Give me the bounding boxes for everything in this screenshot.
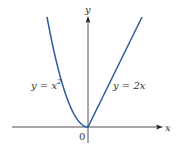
origin-label: 0 — [79, 131, 85, 142]
line-equation: y = 2x — [112, 80, 146, 91]
parabola-equation-base: y = x — [30, 80, 57, 91]
line-curve — [88, 17, 142, 127]
x-axis-label: x — [165, 122, 171, 133]
y-axis-label: y — [84, 4, 91, 15]
graph: x y 0 y = x2 y = 2x — [0, 0, 187, 147]
parabola-equation: y = x2 — [30, 78, 62, 91]
parabola-exponent: 2 — [56, 78, 62, 86]
parabola-curve — [47, 17, 88, 127]
